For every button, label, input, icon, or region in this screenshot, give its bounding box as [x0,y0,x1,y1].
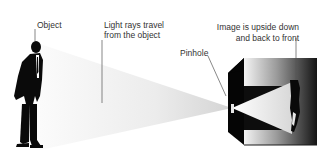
label-light-rays-line2: from the object [104,30,160,40]
light-beam [40,44,232,150]
label-pinhole: Pinhole [180,48,208,58]
pinhole-leader [208,56,226,96]
camera-box [228,58,317,145]
label-object: Object [37,20,62,30]
label-light-rays-line1: Light rays travel [104,20,164,30]
label-image-line1: Image is upside down [217,22,299,32]
object-person-silhouette [14,41,43,148]
label-image-line2: and back to front [236,33,299,43]
pinhole-aperture [231,104,234,113]
